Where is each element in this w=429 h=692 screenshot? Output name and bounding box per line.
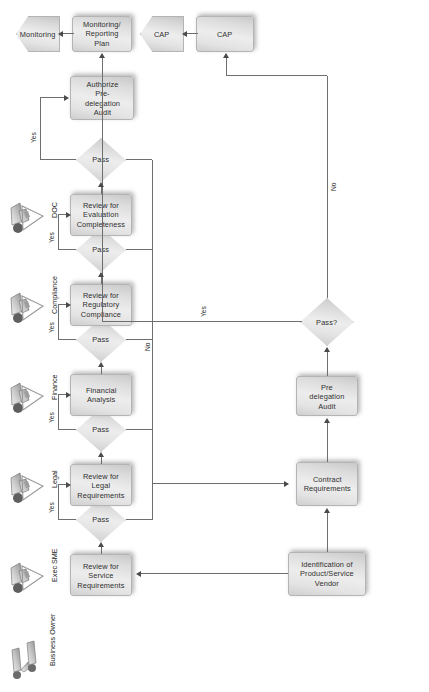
- node-label: Monitoring/ Reporting Plan: [83, 20, 121, 48]
- person-writing-icon: [6, 286, 50, 326]
- edge-review-legal-to-pass: [101, 456, 102, 464]
- arrowhead: [58, 31, 63, 37]
- node-label: CAP: [154, 29, 170, 38]
- edge-contract-to-pre-delegation: [327, 422, 328, 462]
- arrowhead: [66, 212, 71, 218]
- edge-yes-legal-up: [58, 429, 76, 430]
- edge-label-yes-evaluation: Yes: [30, 131, 37, 144]
- node-review-legal[interactable]: Review for Legal Requirements: [70, 464, 132, 506]
- arrowhead: [64, 95, 69, 101]
- edge-yes-service-over: [58, 485, 59, 520]
- edge-no-regulatory-down: [126, 249, 152, 250]
- arrowhead: [284, 481, 289, 487]
- edge-pass-no-horizontal-a: [327, 76, 328, 298]
- node-review-service[interactable]: Review for Service Requirements: [70, 554, 132, 596]
- arrowhead: [66, 482, 71, 488]
- node-label: Pre delegation Audit: [309, 382, 344, 410]
- node-cap-terminator[interactable]: CAP: [140, 16, 184, 52]
- edge-cap-plan-to-end: [186, 33, 198, 34]
- node-label: Pass: [93, 335, 110, 344]
- node-label: Review for Evaluation Completeness: [77, 201, 125, 229]
- node-monitoring-terminator[interactable]: Monitoring: [16, 16, 60, 52]
- edge-label-yes-finance: Yes: [48, 321, 55, 334]
- edge-yes-legal-over: [58, 395, 59, 430]
- edge-yes-finance-over: [58, 305, 59, 340]
- person-writing-icon: [6, 466, 50, 506]
- node-label: Identification of Product/Service Vendor: [300, 560, 354, 588]
- lane-label-exec-sme: Exec SME: [50, 548, 59, 582]
- edge-yes-evaluation-over: [40, 98, 41, 160]
- arrowhead: [98, 542, 104, 547]
- node-label: Monitoring: [20, 29, 56, 38]
- arrowhead: [136, 571, 141, 577]
- edge-label-yes-final: Yes: [200, 305, 207, 318]
- person-writing-icon: [6, 556, 50, 596]
- edge-no-merge-bus: [152, 160, 153, 520]
- arrowhead: [98, 182, 104, 187]
- node-identification[interactable]: Identification of Product/Service Vendor: [288, 552, 366, 596]
- arrowhead: [223, 53, 229, 58]
- edge-yes-evaluation-up: [40, 159, 76, 160]
- node-label: Pass: [93, 245, 110, 254]
- edge-review-evaluation-to-pass: [101, 186, 102, 194]
- arrowhead: [324, 418, 330, 423]
- edge-label-yes-service: Yes: [48, 501, 55, 514]
- node-label: Financial Analysis: [83, 386, 119, 405]
- node-review-evaluation[interactable]: Review for Evaluation Completeness: [70, 194, 132, 236]
- edge-yes-finance-up: [58, 339, 76, 340]
- edge-label-no-merge: No: [144, 342, 151, 352]
- edge-pre-delegation-to-pass: [327, 350, 328, 376]
- edge-monitoring-plan-to-end: [62, 33, 74, 34]
- edge-yes-evaluation-down: [40, 97, 66, 98]
- edge-no-legal-down: [126, 429, 152, 430]
- person-writing-icon: [6, 196, 50, 236]
- edge-identification-to-contract: [327, 512, 328, 552]
- flowchart-canvas: Business Owner Exec SME Legal: [0, 0, 429, 692]
- node-review-regulatory[interactable]: Review for Regulatory Compliance: [70, 284, 132, 326]
- node-label: Review for Regulatory Compliance: [81, 291, 121, 319]
- node-cap-plan[interactable]: CAP: [196, 16, 254, 52]
- arrowhead: [98, 362, 104, 367]
- arrowhead: [182, 31, 187, 37]
- node-pass-final[interactable]: Pass?: [300, 298, 354, 346]
- edge-pass-yes-horizontal: [102, 54, 103, 322]
- edge-yes-regulatory-up: [58, 249, 76, 250]
- node-pre-delegation-audit[interactable]: Pre delegation Audit: [296, 376, 358, 416]
- person-writing-icon: [6, 376, 50, 416]
- two-people-icon: [8, 638, 46, 684]
- arrowhead: [66, 392, 71, 398]
- node-label: Pass?: [316, 317, 337, 326]
- edge-no-service-down: [126, 519, 152, 520]
- node-label: Review for Service Requirements: [77, 561, 124, 589]
- edge-label-no-final: No: [330, 182, 337, 192]
- node-label: CAP: [217, 29, 233, 38]
- edge-yes-regulatory-over: [58, 215, 59, 250]
- edge-pass-yes-vertical: [102, 321, 302, 322]
- arrowhead: [98, 272, 104, 277]
- arrowhead: [66, 302, 71, 308]
- node-monitoring-reporting-plan[interactable]: Monitoring/ Reporting Plan: [72, 16, 132, 52]
- edge-label-yes-regulatory: Yes: [48, 231, 55, 244]
- edge-pass-no-vertical: [226, 75, 327, 76]
- edge-yes-service-up: [58, 519, 76, 520]
- node-pass-evaluation[interactable]: Pass: [76, 138, 126, 182]
- edge-identification-up: [140, 573, 288, 574]
- arrowhead: [324, 347, 330, 352]
- node-label: Pass: [93, 515, 110, 524]
- edge-label-yes-legal: Yes: [48, 411, 55, 424]
- edge-financial-to-pass: [101, 366, 102, 374]
- node-contract-requirements[interactable]: Contract Requirements: [296, 462, 358, 506]
- node-label: Pass: [93, 155, 110, 164]
- arrowhead: [98, 452, 104, 457]
- edge-review-regulatory-to-pass: [101, 276, 102, 284]
- node-label: Pass: [93, 425, 110, 434]
- edge-no-finance-down: [126, 339, 152, 340]
- lane-label-business-owner: Business Owner: [48, 614, 57, 666]
- edge-no-merge-drop: [152, 483, 288, 484]
- node-financial-analysis[interactable]: Financial Analysis: [70, 374, 132, 416]
- arrowhead: [99, 53, 105, 58]
- arrowhead: [324, 508, 330, 513]
- node-label: Contract Requirements: [303, 475, 350, 494]
- edge-no-evaluation-down: [126, 159, 152, 160]
- node-label: Review for Legal Requirements: [77, 471, 124, 499]
